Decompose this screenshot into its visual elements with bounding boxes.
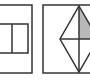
left-panel	[0, 5, 32, 73]
right-panel	[43, 5, 90, 73]
diagram-canvas	[0, 0, 90, 83]
left-inner-rectangle	[0, 24, 28, 53]
left-panel-frame	[0, 5, 32, 73]
